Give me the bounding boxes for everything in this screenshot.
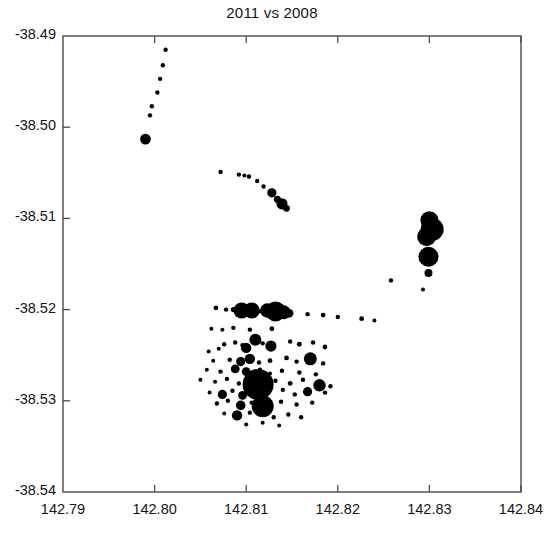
data-point — [260, 341, 264, 345]
data-point — [211, 359, 215, 363]
x-axis-tick-label: 142.84 — [476, 501, 544, 517]
data-point — [208, 391, 212, 395]
data-point — [310, 400, 314, 404]
y-axis-tick-label: -38.53 — [0, 391, 56, 407]
y-axis-tick-label: -38.52 — [0, 300, 56, 316]
data-point — [313, 379, 325, 391]
data-point — [267, 188, 276, 197]
data-point — [231, 364, 240, 373]
data-point — [288, 381, 293, 386]
data-point — [297, 342, 302, 347]
data-point — [268, 358, 273, 363]
data-point — [226, 399, 230, 403]
plot-border — [63, 36, 521, 492]
data-point — [261, 184, 265, 188]
data-point — [421, 288, 425, 292]
data-point — [261, 421, 265, 425]
data-point — [372, 319, 376, 323]
data-point — [417, 227, 436, 246]
data-point — [297, 370, 301, 374]
data-point — [218, 170, 222, 174]
data-point — [225, 377, 229, 381]
data-point — [286, 412, 290, 416]
data-point — [271, 415, 275, 419]
data-point — [198, 378, 202, 382]
data-point — [265, 340, 276, 351]
data-point — [241, 343, 251, 353]
scatter-plot-figure: 2011 vs 2008 142.79142.80142.81142.82142… — [0, 0, 544, 534]
data-point — [161, 63, 165, 67]
data-point — [215, 401, 219, 405]
data-point — [323, 345, 328, 350]
data-point — [336, 315, 340, 319]
data-point — [314, 372, 318, 376]
data-points-layer — [140, 47, 444, 427]
data-point — [293, 392, 297, 396]
x-axis-tick-label: 142.83 — [384, 501, 474, 517]
data-point — [304, 352, 317, 365]
data-point — [238, 391, 247, 400]
data-point — [224, 307, 228, 311]
data-point — [305, 312, 309, 316]
data-point — [150, 104, 154, 108]
data-point — [243, 369, 274, 400]
data-point — [231, 326, 235, 330]
data-point — [236, 401, 246, 411]
data-point — [288, 339, 292, 343]
data-point — [294, 402, 298, 406]
data-point — [148, 113, 152, 117]
data-point — [140, 134, 151, 145]
data-point — [418, 247, 438, 267]
data-point — [257, 360, 261, 364]
data-point — [233, 340, 237, 344]
data-point — [280, 369, 284, 373]
data-point — [220, 328, 224, 332]
data-point — [323, 390, 327, 394]
data-point — [248, 327, 252, 331]
data-point — [242, 174, 246, 178]
data-point — [283, 205, 290, 212]
data-point — [218, 369, 222, 373]
data-point — [311, 340, 315, 344]
data-point — [321, 361, 325, 365]
data-point — [155, 90, 159, 94]
data-point — [328, 384, 332, 388]
data-point — [249, 334, 261, 346]
data-point — [230, 389, 234, 393]
data-point — [244, 423, 248, 427]
data-point — [301, 378, 305, 382]
data-point — [205, 368, 209, 372]
data-point — [321, 313, 326, 318]
plot-canvas — [0, 0, 544, 534]
data-point — [214, 305, 219, 310]
data-point — [237, 381, 241, 385]
data-point — [158, 77, 162, 81]
data-point — [209, 327, 213, 331]
data-point — [207, 350, 211, 354]
data-point — [236, 357, 245, 366]
data-point — [424, 269, 432, 277]
data-point — [228, 358, 232, 362]
data-point — [163, 47, 167, 51]
data-point — [252, 395, 274, 417]
y-axis-tick-label: -38.54 — [0, 482, 56, 498]
data-point — [222, 342, 226, 346]
y-axis-tick-label: -38.51 — [0, 208, 56, 224]
data-point — [245, 354, 255, 364]
data-point — [218, 390, 227, 399]
data-point — [389, 278, 393, 282]
data-point — [299, 415, 303, 419]
data-point — [269, 326, 274, 331]
x-axis-tick-label: 142.80 — [110, 501, 200, 517]
y-axis-tick-label: -38.49 — [0, 26, 56, 42]
data-point — [222, 412, 226, 416]
data-point — [237, 172, 241, 176]
data-point — [213, 380, 217, 384]
y-axis-tick-label: -38.50 — [0, 117, 56, 133]
plot-frame — [63, 36, 521, 492]
x-axis-tick-label: 142.81 — [201, 501, 291, 517]
data-point — [217, 347, 221, 351]
data-point — [294, 359, 298, 363]
data-point — [279, 400, 283, 404]
data-point — [277, 423, 281, 427]
